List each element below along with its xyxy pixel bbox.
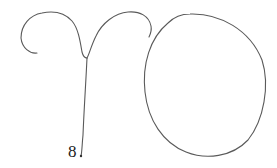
right-arch-stroke — [87, 12, 151, 58]
sketch-canvas: 8 — [0, 0, 277, 168]
sketch-drawing — [0, 0, 277, 168]
circle-stroke — [144, 14, 265, 156]
figure-label: 8 — [68, 143, 77, 160]
left-arch-stroke — [21, 12, 87, 58]
stem-end-dot — [80, 155, 82, 157]
stem-stroke — [81, 58, 87, 156]
